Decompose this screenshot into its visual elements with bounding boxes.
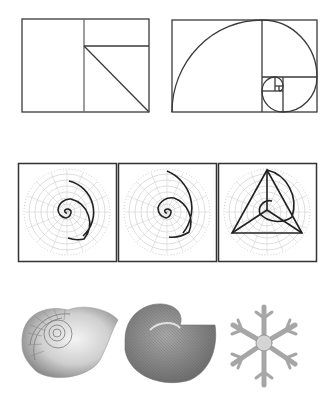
ammonite-shell [125,304,216,383]
golden-rectangle-construction [22,19,149,112]
snowflake [232,307,296,385]
polar-spirals [19,164,317,262]
figure-canvas [0,0,334,407]
nautilus-shell-cross-section [22,307,118,377]
golden-spiral-rectangle [172,20,317,112]
